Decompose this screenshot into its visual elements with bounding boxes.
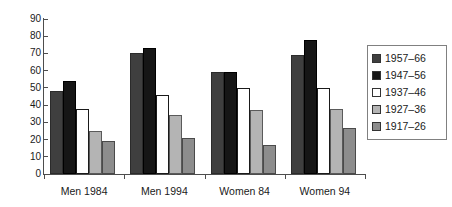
y-axis-tick-label: 30 bbox=[30, 117, 44, 127]
bar bbox=[182, 138, 195, 174]
bar bbox=[330, 109, 343, 174]
bar bbox=[263, 145, 276, 174]
x-axis-label: Women 84 bbox=[205, 176, 285, 202]
bar bbox=[317, 88, 330, 174]
bar-group bbox=[44, 19, 124, 174]
legend-item-label: 1937–46 bbox=[385, 87, 426, 98]
legend-item[interactable]: 1937–46 bbox=[372, 84, 442, 101]
bar bbox=[291, 55, 304, 174]
x-axis-label: Women 94 bbox=[285, 176, 365, 202]
bar-group bbox=[285, 19, 365, 174]
legend-swatch-icon bbox=[372, 54, 381, 63]
x-axis-labels: Men 1984Men 1994Women 84Women 94 bbox=[44, 176, 365, 202]
legend-swatch-icon bbox=[372, 71, 381, 80]
bar bbox=[250, 110, 263, 174]
y-axis-tick-label: 10 bbox=[30, 152, 44, 162]
bar bbox=[89, 131, 102, 174]
x-axis-label-text: Women 84 bbox=[219, 185, 270, 197]
chart-legend: 1957–661947–561937–461927–361917–26 bbox=[367, 45, 447, 140]
legend-item-label: 1917–26 bbox=[385, 121, 426, 132]
bar bbox=[343, 128, 356, 175]
legend-swatch-icon bbox=[372, 122, 381, 131]
x-axis-label: Men 1984 bbox=[44, 176, 124, 202]
bar-group bbox=[124, 19, 204, 174]
legend-item[interactable]: 1947–56 bbox=[372, 67, 442, 84]
x-axis-label-text: Women 94 bbox=[300, 185, 351, 197]
y-axis-tick-label: 0 bbox=[35, 169, 44, 179]
x-axis-label-text: Men 1994 bbox=[141, 185, 188, 197]
y-axis-tick-label: 50 bbox=[30, 83, 44, 93]
legend-item[interactable]: 1927–36 bbox=[372, 101, 442, 118]
legend-item-label: 1957–66 bbox=[385, 53, 426, 64]
y-axis-tick-label: 70 bbox=[30, 48, 44, 58]
y-axis-tick-label: 40 bbox=[30, 100, 44, 110]
bar bbox=[304, 40, 317, 174]
bar bbox=[63, 81, 76, 174]
bar-group bbox=[205, 19, 285, 174]
bar bbox=[156, 95, 169, 174]
y-axis-tick-label: 60 bbox=[30, 66, 44, 76]
x-axis-tick-mark bbox=[365, 174, 366, 179]
bar bbox=[76, 109, 89, 174]
legend-item[interactable]: 1957–66 bbox=[372, 50, 442, 67]
bar bbox=[211, 72, 224, 174]
legend-swatch-icon bbox=[372, 88, 381, 97]
bar bbox=[237, 88, 250, 174]
y-axis-tick-label: 20 bbox=[30, 135, 44, 145]
y-axis-tick-label: 90 bbox=[30, 14, 44, 24]
x-axis-label-text: Men 1984 bbox=[61, 185, 108, 197]
bar bbox=[224, 72, 237, 174]
legend-swatch-icon bbox=[372, 105, 381, 114]
bar bbox=[130, 53, 143, 174]
bar bbox=[102, 141, 115, 174]
legend-item[interactable]: 1917–26 bbox=[372, 118, 442, 135]
bar-chart: 9080706050403020100 Men 1984Men 1994Wome… bbox=[0, 0, 452, 207]
plot-area bbox=[44, 19, 365, 174]
legend-item-label: 1947–56 bbox=[385, 70, 426, 81]
bar bbox=[143, 48, 156, 174]
y-axis-tick-label: 80 bbox=[30, 31, 44, 41]
x-axis-label: Men 1994 bbox=[124, 176, 204, 202]
bar bbox=[50, 91, 63, 174]
bar bbox=[169, 115, 182, 174]
legend-item-label: 1927–36 bbox=[385, 104, 426, 115]
